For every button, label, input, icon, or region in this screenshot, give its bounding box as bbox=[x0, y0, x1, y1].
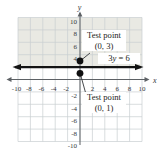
test-point-coords-bottom: (0, 1) bbox=[82, 103, 126, 114]
x-axis-right-arrow bbox=[145, 77, 150, 82]
y-tick-label: 6 bbox=[74, 43, 78, 51]
test-point-label-bottom: Test point bbox=[82, 92, 126, 103]
y-tick-label: 10 bbox=[70, 18, 78, 26]
x-tick-label: -6 bbox=[38, 85, 44, 93]
test-point-coords-top: (0, 3) bbox=[82, 41, 126, 52]
y-tick-label: -6 bbox=[71, 117, 77, 125]
graph-figure: xy-10-8-6-4-224681010864-2-4-6-8-10 Test… bbox=[0, 0, 165, 156]
x-tick-label: 10 bbox=[139, 85, 147, 93]
test-point-callout-top: Test point (0, 3) bbox=[82, 30, 126, 51]
y-tick-label: -8 bbox=[71, 130, 77, 138]
x-tick-label: -8 bbox=[26, 85, 32, 93]
test-point-label-top: Test point bbox=[82, 30, 126, 41]
x-tick-label: -4 bbox=[51, 85, 57, 93]
y-axis-label: y bbox=[77, 3, 82, 12]
test-point-dot-0-3 bbox=[77, 58, 84, 65]
x-axis-left-arrow bbox=[7, 77, 12, 82]
coordinate-plane: xy-10-8-6-4-224681010864-2-4-6-8-10 bbox=[0, 0, 165, 156]
x-tick-label: -2 bbox=[63, 85, 69, 93]
equation-line-left-arrow bbox=[13, 64, 22, 70]
y-axis-top-arrow bbox=[78, 12, 83, 17]
x-tick-label: 8 bbox=[128, 85, 132, 93]
y-tick-label: 8 bbox=[74, 30, 78, 38]
y-tick-label: -4 bbox=[71, 105, 77, 113]
test-point-dot-0-1 bbox=[77, 70, 84, 77]
x-tick-label: -10 bbox=[12, 85, 22, 93]
leader-line-bottom bbox=[81, 76, 86, 92]
equation-part-value: = 6 bbox=[116, 53, 129, 63]
test-point-callout-bottom: Test point (0, 1) bbox=[82, 92, 126, 113]
y-tick-label: -10 bbox=[68, 142, 78, 150]
y-tick-label: -2 bbox=[71, 92, 77, 100]
x-axis-label: x bbox=[152, 76, 157, 85]
line-equation-label: 3y = 6 bbox=[98, 53, 140, 64]
